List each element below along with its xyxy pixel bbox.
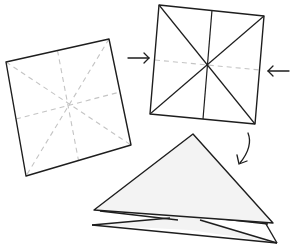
step-3-triangle <box>92 134 277 243</box>
step-2-square <box>150 5 264 124</box>
arrow-left-icon <box>268 66 289 76</box>
origami-diagram <box>0 0 295 246</box>
step-1-square <box>6 39 131 176</box>
curved-arrow-icon <box>237 133 250 164</box>
arrow-right-icon <box>128 53 149 63</box>
